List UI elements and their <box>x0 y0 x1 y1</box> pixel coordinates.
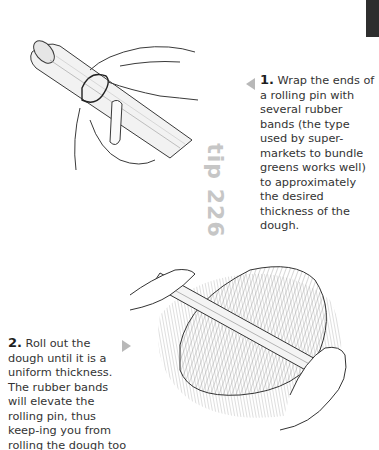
step-1-text: 1. Wrap the ends of a rolling pin with s… <box>260 73 378 234</box>
left-arrow-icon <box>246 78 255 90</box>
illustration-rolling-dough <box>130 240 360 440</box>
step-1-number: 1. <box>260 72 274 87</box>
section-tab-marker <box>366 0 379 37</box>
step-1-description: Wrap the ends of a rolling pin with seve… <box>260 74 374 232</box>
tip-number-label: tip 226 <box>195 140 235 240</box>
step-2-number: 2. <box>8 335 22 350</box>
step-2-text: 2. Roll out the dough until it is a unif… <box>8 336 128 450</box>
illustration-wrapping-rolling-pin <box>20 30 205 180</box>
step-2-description: Roll out the dough until it is a uniform… <box>8 337 126 450</box>
